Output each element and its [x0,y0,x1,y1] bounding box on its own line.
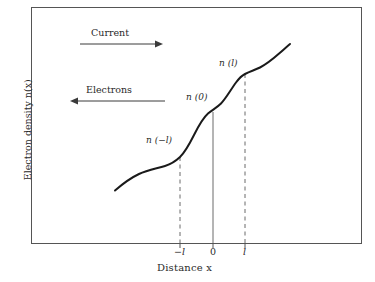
plot-frame [32,8,362,244]
plot-canvas [0,0,375,282]
current-annotation-label: Current [91,28,129,38]
x-tick-label-neg-l: −l [174,247,185,257]
electrons-annotation-label: Electrons [86,85,132,95]
curve-label-n-zero: n (0) [186,93,207,102]
x-tick-label-pos-l: l [243,247,246,257]
figure-container: Electron density n(x) Distance x −l 0 l … [0,0,375,282]
y-axis-title: Electron density n(x) [23,50,33,210]
x-tick-label-zero: 0 [210,247,216,257]
curve-label-n-pos-l: n (l) [219,59,238,68]
x-axis-title: Distance x [157,263,212,273]
curve-label-n-neg-l: n (−l) [146,136,172,145]
